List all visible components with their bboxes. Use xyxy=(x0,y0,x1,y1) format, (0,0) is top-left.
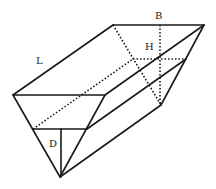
top-right-edge xyxy=(105,25,204,95)
label-width: B xyxy=(155,10,162,21)
back-right-slope-edge xyxy=(161,25,204,105)
label-height: H xyxy=(145,41,154,52)
water-line-right-edge xyxy=(87,59,186,129)
water-line-left-hidden xyxy=(33,59,133,129)
front-face xyxy=(13,95,105,177)
label-length: L xyxy=(36,55,43,66)
label-depth: D xyxy=(49,138,57,149)
top-left-edge xyxy=(13,25,113,95)
trough-diagram: L B H D xyxy=(0,0,216,189)
bottom-keel-edge xyxy=(60,105,161,177)
